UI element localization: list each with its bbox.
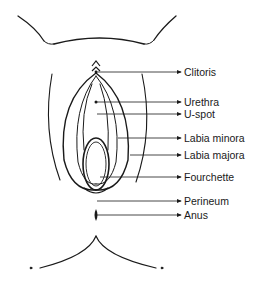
- label-fourchette: Fourchette: [184, 171, 234, 183]
- upper-body-outline: [18, 16, 176, 44]
- vaginal-opening: [83, 138, 109, 190]
- label-perineum: Perineum: [184, 195, 229, 207]
- label-anus: Anus: [184, 209, 208, 221]
- clitoral-hood: [92, 61, 100, 71]
- clitoris-point: [95, 71, 98, 74]
- label-u-spot: U-spot: [184, 108, 215, 120]
- vulva-outline: [63, 73, 128, 190]
- buttocks-outline: [30, 236, 163, 269]
- label-pointers: [97, 72, 181, 215]
- label-labia-majora: Labia majora: [184, 149, 245, 161]
- label-urethra: Urethra: [184, 96, 219, 108]
- labia-majora-outline: [48, 74, 146, 182]
- label-clitoris: Clitoris: [184, 66, 216, 78]
- label-labia-minora: Labia minora: [184, 132, 245, 144]
